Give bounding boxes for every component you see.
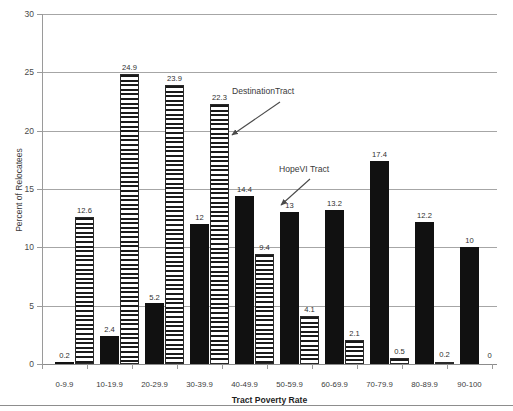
bar-destination-40-49.9[interactable] <box>255 254 274 364</box>
x-tick-5 <box>267 364 268 369</box>
bar-value-destination-60-69.9: 2.1 <box>349 329 360 338</box>
annotation-destination-tract: DestinationTract <box>232 86 294 96</box>
bar-value-hopevi-40-49.9: 14.4 <box>237 185 252 194</box>
bar-group-90-100: 10 0 <box>459 14 500 364</box>
x-tick-label-20-29.9: 20-29.9 <box>141 380 167 389</box>
bar-destination-60-69.9[interactable] <box>345 340 364 365</box>
bar-value-hopevi-80-89.9: 12.2 <box>417 211 432 220</box>
y-tick-30 <box>37 14 42 15</box>
bar-hopevi-80-89.9[interactable] <box>415 222 434 364</box>
x-tick-7 <box>357 364 358 369</box>
x-tick-label-30-39.9: 30-39.9 <box>186 380 212 389</box>
bar-destination-20-29.9[interactable] <box>165 85 184 364</box>
bar-chart-figure: 30 25 20 15 10 5 0 Percent of Relocatees <box>0 0 513 411</box>
page-bottom-rule <box>0 405 513 406</box>
y-tick-15 <box>37 189 42 190</box>
bar-group-80-89.9: 12.2 0.2 <box>414 14 455 364</box>
y-axis-title: Percent of Relocatees <box>14 130 24 250</box>
bar-value-destination-70-79.9: 0.5 <box>394 347 405 356</box>
bar-group-0-9.9: 0.2 12.6 <box>54 14 95 364</box>
bar-value-hopevi-60-69.9: 13.2 <box>327 199 342 208</box>
bar-hopevi-60-69.9[interactable] <box>325 210 344 364</box>
x-tick-label-80-89.9: 80-89.9 <box>411 380 437 389</box>
bar-destination-80-89.9[interactable] <box>435 362 454 364</box>
bar-value-destination-40-49.9: 9.4 <box>259 243 270 252</box>
bar-group-10-19.9: 2.4 24.9 <box>99 14 140 364</box>
bar-destination-0-9.9[interactable] <box>75 217 94 364</box>
bar-hopevi-70-79.9[interactable] <box>370 161 389 364</box>
bar-value-hopevi-0-9.9: 0.2 <box>59 351 70 360</box>
bar-value-hopevi-10-19.9: 2.4 <box>104 325 115 334</box>
x-tick-8 <box>402 364 403 369</box>
annotation-hopevi-tract: HopeVI Tract <box>279 164 329 174</box>
bar-destination-50-59.9[interactable] <box>300 316 319 364</box>
x-tick-2 <box>132 364 133 369</box>
bar-value-destination-20-29.9: 23.9 <box>167 74 182 83</box>
bar-value-hopevi-20-29.9: 5.2 <box>149 293 160 302</box>
bar-hopevi-10-19.9[interactable] <box>100 336 119 364</box>
bar-group-60-69.9: 13.2 2.1 <box>324 14 365 364</box>
bar-value-hopevi-70-79.9: 17.4 <box>372 150 387 159</box>
annotation-arrow-hopevi-icon <box>272 177 314 213</box>
bar-value-destination-80-89.9: 0.2 <box>439 350 450 359</box>
x-tick-4 <box>222 364 223 369</box>
x-tick-0 <box>42 364 43 369</box>
x-tick-10 <box>492 364 493 369</box>
bar-group-40-49.9: 14.4 9.4 <box>234 14 275 364</box>
y-axis-title-wrap: Percent of Relocatees <box>0 0 30 411</box>
bar-group-30-39.9: 12 22.3 <box>189 14 230 364</box>
bar-hopevi-90-100[interactable] <box>460 247 479 364</box>
y-axis-line <box>42 14 43 364</box>
bar-hopevi-30-39.9[interactable] <box>190 224 209 364</box>
bar-destination-70-79.9[interactable] <box>390 358 409 364</box>
gridline-0-baseline <box>42 364 497 365</box>
y-tick-10 <box>37 247 42 248</box>
y-tick-25 <box>37 72 42 73</box>
y-tick-5 <box>37 306 42 307</box>
bar-value-destination-50-59.9: 4.1 <box>304 305 315 314</box>
bar-value-destination-10-19.9: 24.9 <box>122 63 137 72</box>
annotation-arrow-destination-icon <box>224 99 284 144</box>
x-axis-title: Tract Poverty Rate <box>42 395 497 405</box>
x-tick-6 <box>312 364 313 369</box>
bar-hopevi-0-9.9[interactable] <box>55 362 74 364</box>
y-tick-20 <box>37 131 42 132</box>
bar-value-hopevi-30-39.9: 12 <box>195 213 203 222</box>
bar-group-20-29.9: 5.2 23.9 <box>144 14 185 364</box>
bar-value-destination-90-100: 0 <box>487 351 491 360</box>
x-tick-label-10-19.9: 10-19.9 <box>96 380 122 389</box>
bar-group-70-79.9: 17.4 0.5 <box>369 14 410 364</box>
bar-value-destination-0-9.9: 12.6 <box>77 206 92 215</box>
bar-hopevi-20-29.9[interactable] <box>145 303 164 364</box>
x-tick-label-50-59.9: 50-59.9 <box>276 380 302 389</box>
x-tick-label-70-79.9: 70-79.9 <box>366 380 392 389</box>
plot-area: 0.2 12.6 2.4 24.9 5.2 23.9 12 22.3 <box>42 14 497 364</box>
x-tick-label-60-69.9: 60-69.9 <box>321 380 347 389</box>
x-tick-label-40-49.9: 40-49.9 <box>231 380 257 389</box>
x-tick-3 <box>177 364 178 369</box>
bar-hopevi-40-49.9[interactable] <box>235 196 254 364</box>
x-tick-1 <box>87 364 88 369</box>
x-tick-label-90-100: 90-100 <box>457 380 481 389</box>
x-tick-9 <box>447 364 448 369</box>
bar-value-hopevi-90-100: 10 <box>465 236 473 245</box>
bar-destination-10-19.9[interactable] <box>120 74 139 365</box>
bar-hopevi-50-59.9[interactable] <box>280 212 299 364</box>
x-tick-label-0-9.9: 0-9.9 <box>56 380 74 389</box>
